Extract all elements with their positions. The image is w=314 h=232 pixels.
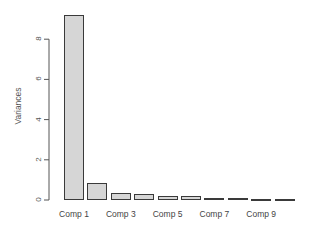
bar-comp-4 — [134, 194, 154, 200]
x-tick-label: Comp 5 — [153, 209, 183, 219]
variance-bar-chart: Variances 02468 Comp 1Comp 3Comp 5Comp 7… — [0, 0, 314, 232]
y-tick-label: 0 — [34, 194, 43, 206]
y-tick-label: 2 — [34, 153, 43, 165]
bar-comp-9 — [251, 199, 271, 201]
bar-comp-10 — [275, 199, 295, 201]
x-tick-label: Comp 9 — [246, 209, 276, 219]
bar-comp-5 — [158, 196, 178, 200]
x-tick-label: Comp 1 — [59, 209, 89, 219]
bar-comp-8 — [228, 198, 248, 200]
y-tick-label: 4 — [34, 113, 43, 125]
bar-comp-7 — [204, 198, 224, 200]
bar-comp-3 — [111, 193, 131, 200]
bar-comp-2 — [87, 183, 107, 200]
x-tick-label: Comp 7 — [200, 209, 230, 219]
y-tick-label: 8 — [34, 33, 43, 45]
bar-comp-6 — [181, 196, 201, 200]
y-tick-label: 6 — [34, 73, 43, 85]
bar-comp-1 — [64, 15, 84, 200]
x-tick-label: Comp 3 — [106, 209, 136, 219]
